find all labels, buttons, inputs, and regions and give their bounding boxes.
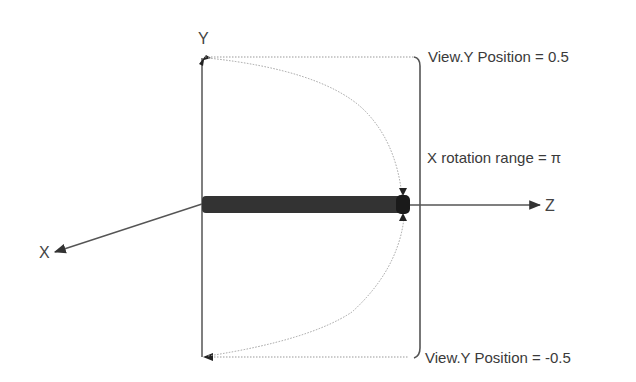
range-bracket bbox=[414, 57, 420, 358]
x-axis-label: X bbox=[39, 245, 50, 261]
rotation-range-annotation: X rotation range = π bbox=[427, 150, 561, 165]
y-axis-label: Y bbox=[198, 31, 209, 47]
top-position-annotation: View.Y Position = 0.5 bbox=[428, 49, 569, 64]
z-axis-label: Z bbox=[545, 198, 555, 214]
rotation-arc-bottom bbox=[208, 218, 404, 356]
arc-arrowhead-down-icon bbox=[399, 188, 407, 196]
arc-arrowhead-up-icon bbox=[399, 213, 407, 221]
bottom-position-annotation: View.Y Position = -0.5 bbox=[425, 350, 571, 365]
x-axis-line bbox=[55, 204, 202, 252]
bottom-left-arrowhead-icon bbox=[203, 353, 213, 361]
view-bar bbox=[202, 196, 402, 213]
view-bar-end-cap bbox=[396, 195, 410, 214]
rotation-arc-top bbox=[208, 58, 402, 196]
